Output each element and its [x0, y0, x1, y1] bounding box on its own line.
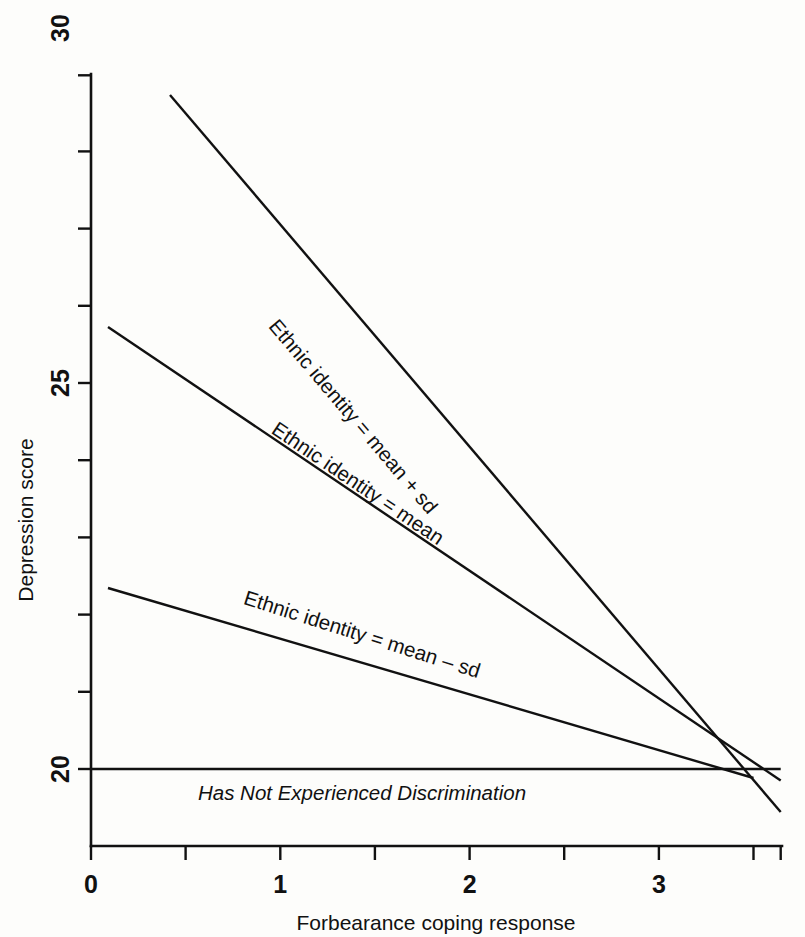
scatter-line-plot: 30 25 20 0 1 2 3 Depression score Forbea… — [0, 0, 805, 937]
y-tick-labels: 30 25 20 — [46, 14, 74, 783]
x-axis-ticks — [91, 846, 754, 860]
series-label-mean-minus-sd: Ethnic identity = mean – sd — [241, 586, 483, 683]
y-tick-label-25: 25 — [46, 369, 74, 397]
series-line-mean — [108, 327, 781, 781]
x-axis-title: Forbearance coping response — [296, 911, 575, 934]
y-tick-label-20: 20 — [46, 755, 74, 783]
series-line-mean-plus-sd — [170, 95, 781, 812]
x-tick-label-3: 3 — [652, 870, 666, 898]
x-tick-label-2: 2 — [463, 870, 477, 898]
x-tick-labels: 0 1 2 3 — [84, 870, 666, 898]
chart-container: 30 25 20 0 1 2 3 Depression score Forbea… — [0, 0, 805, 937]
reference-line-label: Has Not Experienced Discrimination — [198, 781, 526, 804]
y-axis-title: Depression score — [14, 438, 37, 601]
series-line-mean-minus-sd — [108, 588, 754, 778]
x-axis — [91, 846, 782, 860]
x-tick-label-1: 1 — [273, 870, 287, 898]
y-axis-ticks — [78, 151, 91, 769]
y-tick-label-30: 30 — [46, 14, 74, 42]
x-tick-label-0: 0 — [84, 870, 98, 898]
